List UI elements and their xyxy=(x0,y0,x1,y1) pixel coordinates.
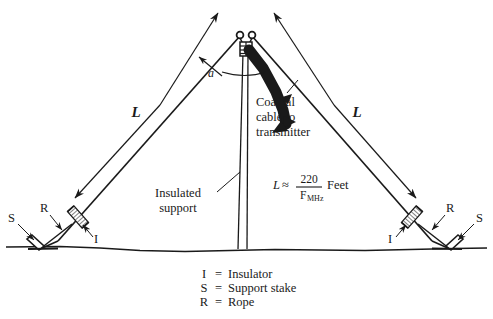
formula-numerator: 220 xyxy=(300,173,318,185)
leg-label-left: L xyxy=(130,104,140,120)
dimension-line-left xyxy=(75,13,218,198)
rope-label-left: R xyxy=(40,201,49,215)
insulator-label-left: I xyxy=(94,232,98,246)
legend-row-value-2: Rope xyxy=(228,295,255,309)
dimension-line-right xyxy=(274,13,416,198)
formula-units: Feet xyxy=(327,178,349,192)
antenna-diagram-svg: a L L Coaxial cable to transmitter Insul… xyxy=(0,0,493,319)
apex-angle-label: a xyxy=(208,66,214,80)
stake-label-left: S xyxy=(8,211,15,225)
legend-row-value-1: Support stake xyxy=(228,281,297,295)
rope-left xyxy=(40,224,72,249)
insulator-label-right: I xyxy=(388,232,392,246)
formula-denominator-base: F xyxy=(300,189,306,201)
legend-row-key-0: I xyxy=(202,267,206,281)
stake-label-right: S xyxy=(476,211,483,225)
coax-callout-line1: Coaxial xyxy=(256,95,295,109)
legend-row-key-2: R xyxy=(200,295,209,309)
leg-label-right: L xyxy=(351,104,361,120)
insulated-support-mast xyxy=(238,52,248,249)
legend-block: I = Insulator S = Support stake R = Rope xyxy=(200,267,297,309)
length-formula: L ≈ 220 F MHz Feet xyxy=(272,173,349,203)
insulated-support-line1: Insulated xyxy=(155,186,202,200)
insulated-support-callout: Insulated support xyxy=(155,172,240,215)
formula-lhs: L xyxy=(272,178,280,192)
legend-row-value-0: Insulator xyxy=(228,267,273,281)
antenna-diagram: a L L Coaxial cable to transmitter Insul… xyxy=(0,0,493,319)
legend-row-equals-0: = xyxy=(215,267,222,281)
legend-row-equals-2: = xyxy=(215,295,222,309)
formula-relation: ≈ xyxy=(282,178,289,192)
rope-label-right: R xyxy=(446,201,455,215)
coax-callout: Coaxial cable to transmitter xyxy=(256,80,311,139)
coax-callout-line3: transmitter xyxy=(256,125,311,139)
legend-row-equals-1: = xyxy=(215,281,222,295)
coax-callout-line2: cable to xyxy=(256,110,295,124)
insulated-support-line2: support xyxy=(159,201,197,215)
legend-row-key-1: S xyxy=(201,281,208,295)
formula-denominator-subscript: MHz xyxy=(307,194,324,203)
